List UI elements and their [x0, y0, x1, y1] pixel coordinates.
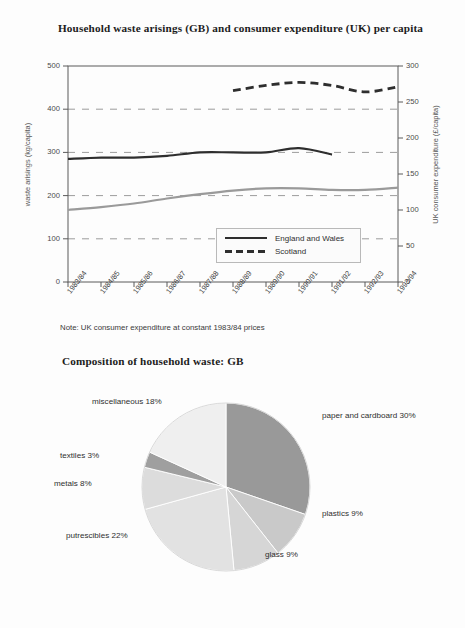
legend-swatch-solid-icon: [225, 232, 267, 244]
pie-slice-label: glass 9%: [265, 550, 298, 559]
pie-slice-label: metals 8%: [54, 479, 92, 488]
line-chart-note: Note: UK consumer expenditure at constan…: [60, 323, 265, 332]
y-axis-left-tick-label: 400: [24, 104, 60, 113]
y-axis-left-tick-label: 0: [24, 277, 60, 286]
y-axis-right-tick-label: 150: [406, 169, 419, 178]
y-axis-right-ticks: [398, 66, 403, 282]
legend-label-england-and-wales: England and Wales: [275, 234, 344, 243]
pie-slice-label: textiles 3%: [60, 451, 99, 460]
legend-item-scotland: Scotland: [225, 245, 306, 257]
y-axis-right-tick-label: 250: [406, 97, 419, 106]
pie-slices: [142, 403, 310, 571]
gridlines: [68, 109, 398, 239]
legend-swatch-dashed-icon: [225, 245, 267, 257]
line-chart-figure: Household waste arisings (GB) and consum…: [0, 0, 465, 345]
y-axis-right-title: UK consumer expenditure (£/capita): [431, 105, 440, 225]
pie-chart-figure: Composition of household waste: GB paper…: [0, 345, 465, 628]
pie-slice-label: paper and cardboard 30%: [322, 411, 416, 420]
pie-slice-label: plastics 9%: [322, 509, 363, 518]
y-axis-left-tick-label: 100: [24, 234, 60, 243]
pie-slice-label: putrescibles 22%: [66, 531, 128, 540]
y-axis-left-tick-label: 300: [24, 147, 60, 156]
y-axis-right-tick-label: 50: [406, 241, 414, 250]
series-line: [233, 82, 398, 92]
y-axis-left-ticks: [63, 66, 68, 282]
legend-item-england-and-wales: England and Wales: [225, 232, 344, 244]
series-line: [68, 188, 398, 210]
y-axis-left-tick-label: 200: [24, 191, 60, 200]
y-axis-right-tick-label: 300: [406, 61, 419, 70]
pie-slice-label: miscellaneous 18%: [92, 397, 162, 406]
y-axis-left-title: waste arisings (kg/capita): [23, 105, 32, 225]
chart-legend: England and Wales Scotland: [216, 228, 361, 263]
legend-label-scotland: Scotland: [275, 247, 306, 256]
data-series-group: [68, 82, 398, 210]
y-axis-right-tick-label: 200: [406, 133, 419, 142]
y-axis-left-tick-label: 500: [24, 61, 60, 70]
figure-page: Household waste arisings (GB) and consum…: [0, 0, 465, 628]
series-line: [68, 148, 332, 159]
y-axis-right-tick-label: 100: [406, 205, 419, 214]
